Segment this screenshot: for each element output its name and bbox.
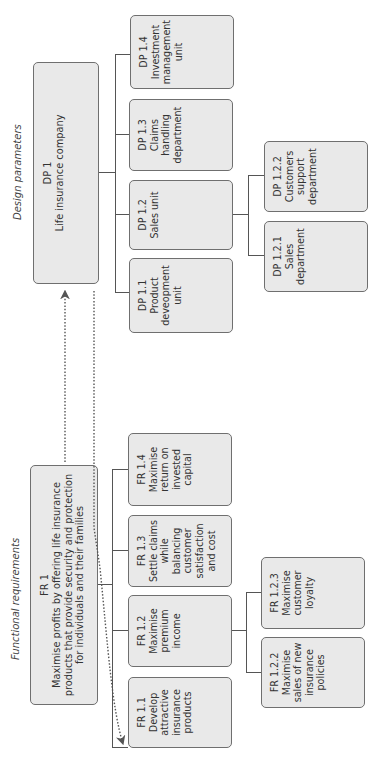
axiomatic-design-diagram: Functional requirements Design parameter…	[0, 0, 381, 768]
mapping-arrows	[0, 0, 381, 768]
dp-to-fr-arrow	[94, 291, 123, 744]
